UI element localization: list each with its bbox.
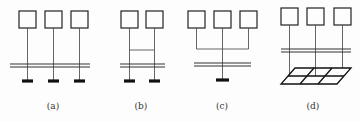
panel-label: (a) <box>47 101 59 111</box>
panel-label: (b) <box>135 101 148 111</box>
panel-d: (d) <box>281 8 351 111</box>
device-box <box>146 11 163 28</box>
device-box <box>334 8 351 25</box>
grounding-diagram: (a) (b) (c) <box>0 0 360 122</box>
panel-b: (b) <box>120 11 165 111</box>
device-box <box>121 11 138 28</box>
panel-label: (d) <box>307 101 320 111</box>
device-box <box>71 11 88 28</box>
device-box <box>240 11 257 28</box>
panel-a: (a) <box>10 11 90 111</box>
diagram-svg: (a) (b) (c) <box>0 0 360 122</box>
panel-label: (c) <box>216 101 228 111</box>
ground-grid <box>281 68 351 84</box>
device-box <box>19 11 36 28</box>
device-box <box>188 11 205 28</box>
device-box <box>45 11 62 28</box>
device-box <box>307 8 324 25</box>
device-box <box>281 8 298 25</box>
device-box <box>214 11 231 28</box>
panel-c: (c) <box>188 11 257 111</box>
